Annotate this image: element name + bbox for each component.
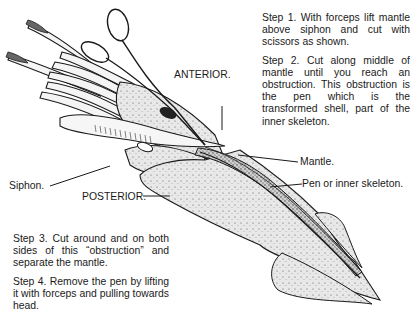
step-3: Step 3. Cut around and on both sides of … bbox=[13, 233, 169, 270]
label-anterior: ANTERIOR. bbox=[174, 69, 231, 81]
label-pen: Pen or inner skeleton. bbox=[302, 178, 403, 190]
label-siphon: Siphon. bbox=[9, 180, 44, 192]
steps-bottom: Step 3. Cut around and on both sides of … bbox=[13, 233, 169, 318]
step-4: Step 4. Remove the pen by lifting it wit… bbox=[13, 276, 169, 313]
label-mantle: Mantle. bbox=[300, 156, 334, 168]
step-2: Step 2. Cut along middle of mantle until… bbox=[262, 55, 410, 128]
tentacle-club-2 bbox=[6, 52, 28, 63]
step-1: Step 1. With forceps lift mantle above s… bbox=[262, 12, 410, 49]
steps-top: Step 1. With forceps lift mantle above s… bbox=[262, 12, 410, 134]
label-posterior: POSTERIOR. bbox=[82, 191, 146, 203]
